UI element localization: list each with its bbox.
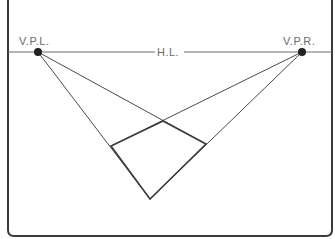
perspective-square — [111, 121, 206, 199]
vp-right-dot — [298, 48, 306, 56]
vp-left-label: V.P.L. — [19, 35, 50, 47]
vp-left-dot — [34, 48, 42, 56]
vp-right-label: V.P.R. — [283, 35, 315, 47]
horizon-label: H.L. — [157, 46, 179, 58]
perspective-diagram: H.L. V.P.L. V.P.R. — [0, 0, 335, 239]
